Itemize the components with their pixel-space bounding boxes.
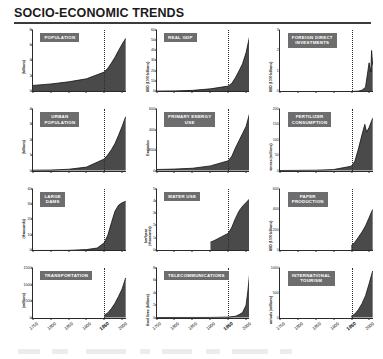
page-artifact-block xyxy=(280,349,292,354)
x-axis-tick-mark xyxy=(351,318,352,320)
chart-panel-inner: 050010001500(millions)175018001850190019… xyxy=(10,265,128,345)
chart-panel: 010203040(thousands)LARGE DAMS xyxy=(10,186,128,266)
x-axis-tick-mark xyxy=(192,171,193,173)
x-axis-tick-mark xyxy=(174,171,175,173)
chart-title-chip: PAPER PRODUCTION xyxy=(288,192,328,207)
x-axis-tick-mark xyxy=(280,250,281,252)
y-axis-label: (billions) xyxy=(23,140,27,154)
x-axis-tick-mark xyxy=(315,91,316,93)
x-axis-tick-label: 1750 xyxy=(28,321,39,331)
chart-panel: 012345km³/year (thousands)WATER USE xyxy=(134,186,252,266)
chart-panel-inner: 0102030405060USD (1000 billions)REAL GDP xyxy=(134,27,252,107)
x-axis-tick-mark xyxy=(174,250,175,252)
chart-title-chip: WATER USE xyxy=(164,192,200,202)
chart-grid: 02468(billions)POPULATION0102030405060US… xyxy=(8,27,375,345)
chart-panel-inner: 0200400600ExajoulesPRIMARY ENERGY USE xyxy=(134,106,252,186)
page-artifact-block xyxy=(18,349,40,354)
page-artifact-block xyxy=(140,349,150,354)
year-1950-marker xyxy=(352,109,353,171)
chart-panel: 01234(billions)URBAN POPULATION xyxy=(10,106,128,186)
x-axis-tick-mark xyxy=(86,91,87,93)
x-axis-tick-mark xyxy=(333,250,334,252)
x-axis-tick-mark xyxy=(210,250,211,252)
year-1950-marker xyxy=(104,30,105,92)
figure-root: SOCIO-ECONOMIC TRENDS 02468(billions)POP… xyxy=(0,0,383,359)
x-axis-tick-mark xyxy=(33,318,34,320)
plot-area: 0123USD (1000 billions)FOREIGN DIRECT IN… xyxy=(279,30,373,93)
year-1950-marker xyxy=(228,109,229,171)
x-axis-tick-mark xyxy=(104,318,105,320)
y-axis-label: (thousands) xyxy=(23,219,27,238)
x-axis-tick-mark xyxy=(298,91,299,93)
chart-title-chip: TELECOMMUNICATIONS xyxy=(164,271,229,281)
x-axis-tick-mark xyxy=(298,250,299,252)
x-axis-tick-mark xyxy=(50,318,51,320)
year-1950-marker xyxy=(104,268,105,318)
plot-area: 02468(billions)POPULATION xyxy=(32,30,126,93)
x-axis-tick-mark xyxy=(245,250,246,252)
chart-panel: 0123USD (1000 billions)FOREIGN DIRECT IN… xyxy=(257,27,375,107)
x-axis-tick-mark xyxy=(192,250,193,252)
year-1950-marker xyxy=(352,268,353,318)
chart-panel-inner: 010203040(thousands)LARGE DAMS xyxy=(10,186,128,266)
x-axis-tick-mark xyxy=(50,91,51,93)
x-axis-tick-label: 1900 xyxy=(329,321,340,331)
plot-area: 05001000arrivals (millions)1750180018501… xyxy=(279,268,373,319)
x-axis-tick-label: 1800 xyxy=(170,321,181,331)
chart-title-chip: PRIMARY ENERGY USE xyxy=(164,112,215,127)
plot-area: 050100150200tonnes (millions)FERTILIZER … xyxy=(279,109,373,172)
x-axis-tick-mark xyxy=(33,250,34,252)
x-axis-tick-mark xyxy=(156,171,157,173)
x-axis-tick-mark xyxy=(245,91,246,93)
chart-title-chip: URBAN POPULATION xyxy=(40,112,79,127)
x-axis-tick-mark xyxy=(351,250,352,252)
x-axis-tick-mark xyxy=(369,318,370,320)
chart-title-chip: POPULATION xyxy=(40,33,79,43)
x-axis-tick-mark xyxy=(86,171,87,173)
chart-panel-inner: 0123USD (1000 billions)FOREIGN DIRECT IN… xyxy=(257,27,375,107)
x-axis-tick-mark xyxy=(298,171,299,173)
x-axis-tick-mark xyxy=(369,91,370,93)
x-axis-tick-mark xyxy=(245,318,246,320)
chart-panel-inner: 012345km³/year (thousands)WATER USE xyxy=(134,186,252,266)
x-axis-tick-mark xyxy=(315,318,316,320)
y-axis-label: USD (1000 billions) xyxy=(147,60,151,94)
x-axis-tick-label: 1800 xyxy=(293,321,304,331)
page-artifact-block xyxy=(162,349,192,354)
x-axis-tick-mark xyxy=(369,250,370,252)
x-axis-tick-label: 1750 xyxy=(275,321,286,331)
x-axis-tick-mark xyxy=(86,250,87,252)
x-axis-tick-mark xyxy=(227,171,228,173)
x-axis-tick-mark xyxy=(104,250,105,252)
chart-title-chip: TRANSPORTATION xyxy=(40,271,92,281)
x-axis-tick-mark xyxy=(280,171,281,173)
x-axis-tick-mark xyxy=(227,250,228,252)
x-axis-tick-mark xyxy=(122,250,123,252)
x-axis-tick-mark xyxy=(210,171,211,173)
x-axis-tick-mark xyxy=(104,171,105,173)
year-1950-marker xyxy=(104,109,105,171)
y-axis-label: USD (1000 billions) xyxy=(271,219,275,253)
x-axis-tick-mark xyxy=(122,171,123,173)
x-axis-tick-mark xyxy=(333,318,334,320)
chart-panel-inner: 05001000arrivals (millions)1750180018501… xyxy=(257,265,375,345)
x-axis-tick-mark xyxy=(122,91,123,93)
x-axis-tick-mark xyxy=(86,318,87,320)
x-axis-tick-mark xyxy=(104,91,105,93)
x-axis-tick-mark xyxy=(280,91,281,93)
x-axis-tick-mark xyxy=(192,318,193,320)
chart-panel: 05001000arrivals (millions)1750180018501… xyxy=(257,265,375,345)
x-axis-tick-mark xyxy=(369,171,370,173)
year-1950-marker xyxy=(104,189,105,251)
x-axis-tick-mark xyxy=(227,318,228,320)
x-axis-tick-mark xyxy=(50,171,51,173)
x-axis-tick-mark xyxy=(156,318,157,320)
chart-title-chip: INTERNATIONAL TOURISM xyxy=(288,271,335,286)
y-axis-label: fixed lines (billions) xyxy=(147,293,151,327)
y-axis-label: km³/year (thousands) xyxy=(145,219,152,253)
chart-title-chip: FOREIGN DIRECT INVESTMENTS xyxy=(288,33,337,48)
chart-panel: 02468fixed lines (billions)1750180018501… xyxy=(134,265,252,345)
x-axis-tick-label: 1850 xyxy=(64,321,75,331)
page-artifact-block xyxy=(86,349,126,354)
x-axis-tick-mark xyxy=(333,91,334,93)
